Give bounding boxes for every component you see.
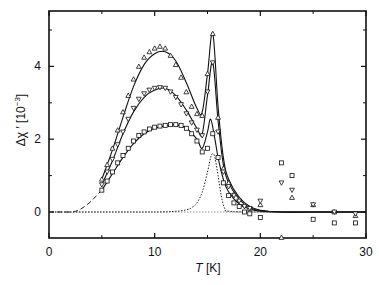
triangle-down-marker [121, 130, 126, 134]
triangle-up-marker [290, 195, 295, 199]
square-marker [116, 161, 120, 165]
square-marker [227, 194, 231, 198]
square-marker [279, 161, 283, 165]
x-tick-label: 20 [254, 245, 268, 259]
plot-border [49, 11, 366, 238]
triangle-up-marker [105, 162, 110, 166]
triangle-down-marker [105, 170, 110, 174]
triangle-down-marker [184, 112, 189, 116]
triangle-down-marker [99, 183, 104, 187]
square-marker [121, 154, 125, 158]
triangle-up-marker [131, 77, 136, 81]
square-marker [132, 139, 136, 143]
square-marker [216, 155, 220, 159]
triangle-down-marker [115, 143, 120, 147]
triangle-up-marker [189, 104, 194, 108]
square-marker [153, 125, 157, 129]
triangle-up-marker [142, 55, 147, 59]
square-marker [200, 150, 204, 154]
triangle-down-marker [258, 199, 263, 203]
x-axis-title: T [K] [195, 261, 220, 275]
square-marker [195, 139, 199, 143]
triangle-down-marker [290, 188, 295, 192]
square-marker [105, 179, 109, 183]
square-marker [237, 205, 241, 209]
chart: 0102030024 T [K] Δχ ′ [10−3] [0, 0, 379, 285]
square-marker [163, 123, 167, 127]
triangle-up-marker [163, 46, 168, 50]
x-tick-label: 0 [46, 245, 53, 259]
triangle-up-marker [216, 115, 221, 119]
square-marker [258, 215, 262, 219]
triangle-down-marker [152, 86, 157, 90]
square-marker [290, 174, 294, 178]
square-marker [353, 221, 357, 225]
y-axis-title: Δχ ′ [10−3] [13, 94, 28, 146]
data-curves [49, 33, 366, 212]
data-markers [99, 31, 357, 239]
triangle-up-marker [99, 177, 104, 181]
triangle-up-marker [158, 44, 163, 48]
square-marker [100, 188, 104, 192]
square-marker [147, 127, 151, 131]
square-marker [179, 123, 183, 127]
square-marker [242, 210, 246, 214]
square-marker [332, 221, 336, 225]
square-marker [126, 146, 130, 150]
square-marker [184, 126, 188, 130]
y-tick-label: 2 [34, 132, 41, 146]
square-marker [232, 201, 236, 205]
square-marker [158, 124, 162, 128]
square-marker [311, 217, 315, 221]
triangle-up-marker [152, 46, 157, 50]
square-marker [221, 181, 225, 185]
y-tick-label: 0 [34, 205, 41, 219]
dashed-extrapolation-curve [49, 190, 102, 212]
triangle-down-marker [279, 181, 284, 185]
square-marker [248, 212, 252, 216]
triangle-up-marker [147, 49, 152, 53]
square-marker [211, 132, 215, 136]
dotted-peak-curve [49, 154, 366, 212]
x-tick-label: 10 [148, 245, 162, 259]
square-marker [190, 132, 194, 136]
square-marker [110, 170, 114, 174]
square-marker [206, 146, 210, 150]
y-tick-label: 4 [34, 59, 41, 73]
fit-curve-1 [102, 33, 366, 212]
square-marker [137, 134, 141, 138]
triangle-up-marker [184, 89, 189, 93]
x-tick-label: 30 [359, 245, 373, 259]
triangle-up-marker [205, 71, 210, 75]
square-marker [174, 123, 178, 127]
triangle-down-marker [110, 157, 115, 161]
square-marker [142, 130, 146, 134]
triangle-up-marker [136, 64, 141, 68]
plot-frame [49, 11, 366, 238]
square-marker [169, 123, 173, 127]
triangle-up-marker [210, 31, 215, 35]
